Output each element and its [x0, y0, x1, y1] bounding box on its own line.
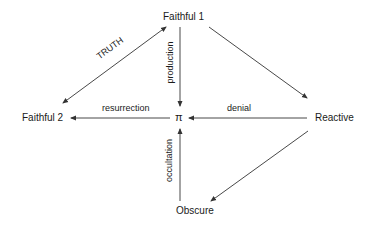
edge-label-denial: denial — [227, 103, 251, 114]
edge-reactive-obscure-arrow — [211, 131, 308, 201]
node-faithful-1: Faithful 1 — [163, 11, 204, 23]
node-obscure: Obscure — [176, 205, 214, 217]
edge-faithful1-reactive-arrow — [209, 27, 307, 98]
edge-label-production: production — [165, 41, 176, 83]
diagram-canvas: Faithful 1 Faithful 2 π Reactive Obscure… — [0, 0, 370, 232]
edge-label-occultation: occultation — [164, 139, 175, 182]
node-pi: π — [175, 111, 183, 123]
node-reactive: Reactive — [315, 112, 354, 124]
node-faithful-2: Faithful 2 — [22, 112, 63, 124]
edge-label-resurrection: resurrection — [102, 103, 150, 114]
